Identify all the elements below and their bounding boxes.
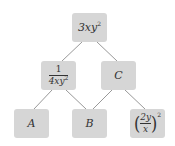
node-right-mid: C	[101, 61, 136, 90]
edge-right-b	[93, 90, 112, 109]
node-bottom-c: ( 2y x ) 2	[130, 109, 165, 138]
edge-root-left	[62, 42, 82, 61]
edge-right-c	[125, 90, 145, 109]
node-bottom-b: B	[72, 109, 107, 138]
fraction-one-over-4xy2: 1 4xy2	[49, 65, 69, 86]
label-a: A	[28, 117, 36, 130]
node-root: 3xy2	[72, 13, 107, 42]
label-c: C	[114, 69, 122, 82]
node-bottom-a: A	[14, 109, 49, 138]
edge-root-right	[97, 42, 117, 61]
root-expression: 3xy2	[78, 21, 101, 34]
edge-left-b	[66, 90, 86, 109]
label-b: B	[85, 117, 93, 130]
expression-2y-over-x-squared: ( 2y x ) 2	[134, 113, 161, 134]
node-left-mid: 1 4xy2	[41, 61, 76, 90]
edge-left-a	[34, 90, 52, 109]
